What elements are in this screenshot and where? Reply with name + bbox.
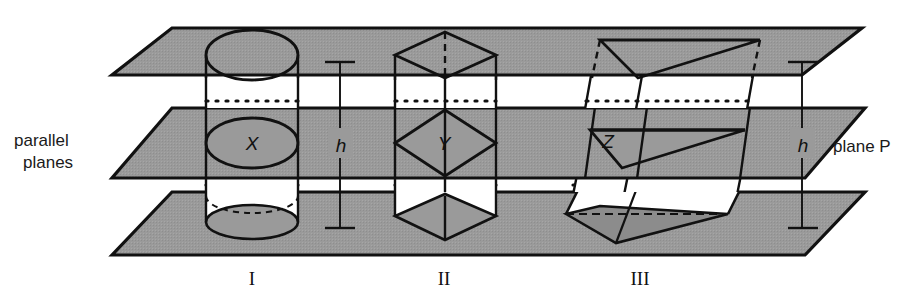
cross-section-z-label: Z	[601, 131, 615, 152]
cross-section-x-label: X	[245, 133, 260, 154]
figure-label-2: II	[438, 268, 451, 289]
height-label-left: h	[336, 135, 347, 156]
plane-p-label: plane P	[833, 137, 891, 156]
parallel-planes-label-line2: planes	[23, 153, 73, 172]
parallel-planes-label-line1: parallel	[14, 131, 69, 150]
figure-label-3: III	[631, 268, 650, 289]
parallel-planes-diagram: X Y Z	[0, 0, 921, 298]
figure-label-1: I	[249, 268, 255, 289]
cross-section-y-label: Y	[438, 133, 452, 154]
height-label-right: h	[798, 135, 809, 156]
